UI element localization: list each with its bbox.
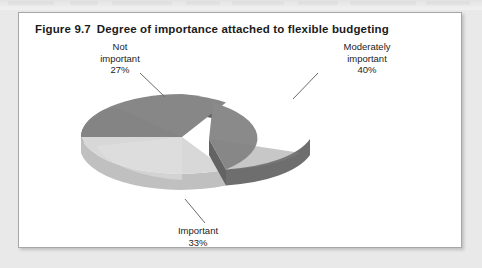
pie-label-important: Important 33% [154,225,242,248]
pie-label-moderately-line2: important [319,53,415,65]
pie-label-not-important-line1: Not [81,41,159,53]
pie-label-important-value: 33% [154,237,242,249]
leader-line-not-important [140,73,165,97]
figure-frame: Figure 9.7Degree of importance attached … [18,12,462,248]
leader-line-moderately-important [293,73,318,99]
pie-chart: Not important 27% Moderately important 4… [19,13,463,249]
pie-label-not-important-line2: important [81,53,159,65]
pie-slice-important [81,137,226,190]
pie-label-not-important-value: 27% [81,64,159,76]
pie-label-important-line1: Important [154,225,242,237]
pie-label-moderately-line1: Moderately [319,41,415,53]
scan-artifact-band [0,0,482,10]
pie-label-not-important: Not important 27% [81,41,159,76]
pie-label-moderately-important: Moderately important 40% [319,41,415,76]
pie-label-moderately-value: 40% [319,64,415,76]
leader-line-important [185,199,205,223]
pie-slice-moderately-important [209,103,310,186]
